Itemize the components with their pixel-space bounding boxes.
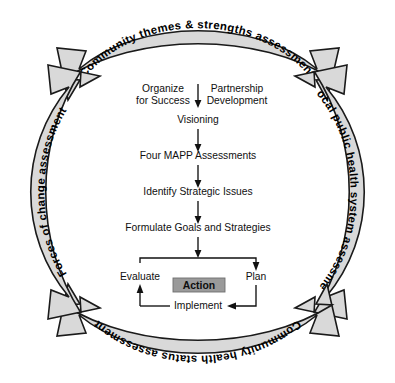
band-bottom-shape [57, 284, 339, 353]
flow-node-partnership-development[interactable]: Partnership Development [207, 83, 268, 106]
action-cycle-top-connector [140, 258, 259, 271]
flow-node-organize-for-success[interactable]: Organize for Success [136, 83, 190, 106]
action-cycle-plan[interactable]: Plan [246, 271, 267, 282]
arrow-strategic-issues-to-goals [195, 201, 202, 224]
mapp-diagram-canvas: Community themes & strengths assessment … [0, 0, 395, 383]
organize-line1: Organize [142, 83, 184, 94]
organize-line2: for Success [136, 95, 190, 106]
flow-node-four-mapp-assessments[interactable]: Four MAPP Assessments [140, 150, 257, 161]
action-cycle-action-box[interactable]: Action [173, 278, 225, 292]
action-box-label: Action [183, 280, 215, 291]
action-cycle-left-connector [137, 284, 170, 306]
band-left-label: Forces of change assessment [34, 105, 68, 279]
flow-node-formulate-goals[interactable]: Formulate Goals and Strategies [125, 222, 270, 233]
arrow-goals-to-action-cycle [195, 237, 202, 258]
mapp-diagram: Community themes & strengths assessment … [0, 0, 395, 383]
action-cycle-implement[interactable]: Implement [174, 300, 222, 311]
band-forces-of-change[interactable]: Forces of change assessment [31, 65, 100, 319]
arrow-visioning-to-assessments [195, 129, 202, 152]
band-top-label: Community themes & strengths assessment [77, 18, 318, 79]
flow-node-identify-strategic-issues[interactable]: Identify Strategic Issues [143, 186, 252, 197]
arrow-to-visioning [195, 84, 202, 108]
action-cycle-evaluate[interactable]: Evaluate [120, 271, 160, 282]
action-cycle-right-connector [227, 285, 256, 309]
band-left-textpath: Forces of change assessment [34, 105, 68, 279]
arrow-assessments-to-strategic-issues [195, 165, 202, 188]
band-community-health-status[interactable]: Community health status assessment [57, 284, 339, 366]
partnership-line2: Development [207, 95, 268, 106]
band-top-textpath: Community themes & strengths assessment [77, 18, 318, 79]
partnership-line1: Partnership [211, 83, 264, 94]
flow-node-visioning[interactable]: Visioning [177, 114, 219, 125]
